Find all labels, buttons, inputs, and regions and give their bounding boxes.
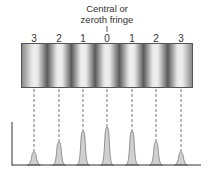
intensity-peak (126, 131, 139, 165)
intensity-peak (53, 142, 66, 165)
intensity-peak (175, 152, 188, 165)
intensity-peaks (28, 127, 188, 165)
intensity-peak (77, 131, 90, 165)
intensity-peak (101, 127, 114, 165)
intensity-plot (0, 0, 208, 174)
intensity-peak (150, 142, 163, 165)
intensity-peak (28, 152, 41, 165)
